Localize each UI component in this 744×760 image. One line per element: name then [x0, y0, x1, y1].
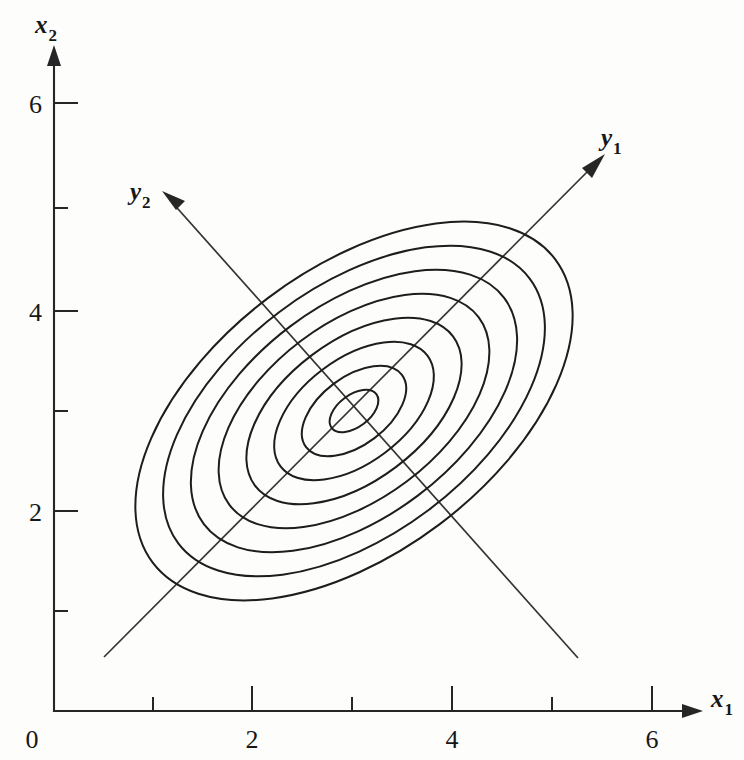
- contour-ellipse-8: [67, 146, 640, 676]
- x1-tick-label-6: 6: [646, 725, 659, 754]
- contour-ellipse-7: [104, 180, 605, 643]
- x2-tick-label-4: 4: [29, 298, 42, 327]
- plot-svg: y2 y1 2 4 6: [0, 0, 744, 760]
- contour-plot-figure: y2 y1 2 4 6: [0, 0, 744, 760]
- x1-tick-label-2: 2: [246, 725, 259, 754]
- y2-axis-label-subscript: 2: [142, 193, 151, 212]
- y1-axis-label-text: y: [598, 124, 613, 151]
- contour-ellipse-2: [286, 348, 423, 475]
- contour-ellipse-group: [67, 146, 640, 676]
- y2-axis-label: y2: [127, 178, 151, 212]
- x1-axis-arrowhead: [682, 704, 703, 718]
- y1-axis-label-subscript: 1: [613, 139, 622, 158]
- x2-tick-label-2: 2: [29, 498, 42, 527]
- x1-axis-label: x1: [710, 685, 733, 719]
- x2-axis-label-text: x: [34, 11, 48, 38]
- x1-tick-label-0: 0: [26, 725, 39, 754]
- x2-axis-group: 2 4 6 x2: [29, 11, 78, 711]
- x1-axis-group: 0 2 4 6 x1: [26, 685, 734, 754]
- y2-arrowhead: [162, 191, 185, 210]
- contour-ellipse-6: [140, 213, 568, 609]
- contour-ellipse-5: [176, 247, 531, 575]
- y2-axis-line: [170, 200, 578, 658]
- x1-axis-label-subscript: 1: [725, 700, 734, 719]
- contour-ellipse-4: [213, 280, 495, 541]
- x2-axis-label: x2: [34, 11, 57, 45]
- x2-axis-arrowhead: [47, 45, 61, 66]
- y1-axis-line: [104, 162, 597, 657]
- x1-tick-label-4: 4: [446, 725, 459, 754]
- x2-axis-label-subscript: 2: [49, 26, 58, 45]
- y2-axis-label-text: y: [127, 178, 142, 205]
- y1-axis-label: y1: [598, 124, 622, 158]
- x2-tick-label-6: 6: [29, 90, 42, 119]
- x1-axis-label-text: x: [710, 685, 724, 712]
